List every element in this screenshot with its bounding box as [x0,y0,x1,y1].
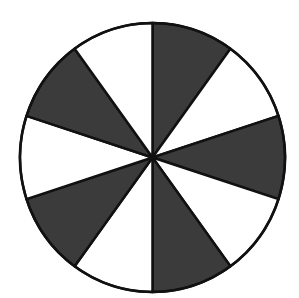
sectors-group [20,23,285,292]
sectored-circle-diagram [0,0,299,298]
